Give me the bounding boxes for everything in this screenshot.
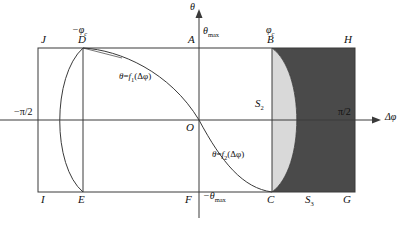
figure-canvas: θ Δφ θmax −θmax −π/2 π/2 −φc φc J D A B … [0,0,401,231]
curve-label-f1: θ=f1(Δφ) [119,72,151,83]
x-right-tick-label: π/2 [338,107,351,117]
x-left-tick-label: −π/2 [14,107,32,117]
point-label-b: B [267,34,274,45]
f1-arg: (Δφ) [134,71,151,81]
curve-f1 [83,48,199,120]
point-label-e: E [78,194,85,205]
point-label-o: O [186,122,194,133]
leader-line-f1 [83,48,122,58]
y-axis-arrowhead [196,9,203,18]
point-label-j: J [41,34,46,45]
curve-label-f2: θ=f2(Δφ) [212,150,244,161]
region-label-s2: S2 [255,98,264,112]
neg-theta-max-sub: max [215,196,226,203]
point-label-a: A [188,34,195,45]
x-axis-label: Δφ [385,112,396,122]
s2-sub: 2 [261,104,264,111]
x-axis-arrowhead [372,117,381,124]
point-label-d: D [78,34,86,45]
point-label-f: F [185,194,192,205]
f2-arg: (Δφ) [227,149,244,159]
point-label-c: C [267,194,274,205]
point-label-g: G [343,194,351,205]
s3-sub: 3 [311,200,314,207]
theta-max-label: θmax [203,26,219,39]
point-label-i: I [41,194,45,205]
point-label-h: H [344,34,352,45]
theta-max-sub: max [208,31,219,38]
neg-theta-max-main: −θ [203,190,215,201]
region-label-s3: S3 [305,194,314,208]
y-axis-label: θ [190,2,195,12]
neg-theta-max-label: −θmax [203,191,226,204]
